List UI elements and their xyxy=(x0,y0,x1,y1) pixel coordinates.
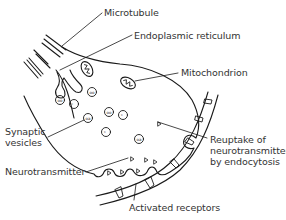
svg-text:oo: oo xyxy=(58,98,63,103)
label-microtubule: Microtubule xyxy=(104,7,159,18)
svg-text:oo: oo xyxy=(107,110,112,115)
svg-text:ᵇ: ᵇ xyxy=(104,130,106,135)
label-endoplasmic-reticulum: Endoplasmic reticulum xyxy=(134,30,240,41)
svg-text:ᵇ: ᵇ xyxy=(121,113,123,118)
svg-text:ᵒ: ᵒ xyxy=(72,102,74,107)
svg-text:oa: oa xyxy=(137,137,142,142)
leader-activated-receptors xyxy=(134,184,136,200)
mitochondrion-2 xyxy=(119,75,138,92)
label-neurotransmitter: Neurotransmitter xyxy=(5,166,85,177)
synapse-diagram: oo ᵒ oo oa oo ᵇ ᵇ oa xyxy=(0,0,286,220)
microtubules xyxy=(24,35,66,78)
leader-microtubule xyxy=(62,13,102,46)
svg-text:oo: oo xyxy=(90,90,95,95)
svg-text:oa: oa xyxy=(86,116,91,121)
leader-endoplasmic-reticulum xyxy=(60,35,132,70)
label-activated-receptors: Activated receptors xyxy=(129,202,220,213)
leader-reuptake xyxy=(158,122,207,138)
leader-synaptic-vesicles xyxy=(48,120,84,137)
label-mitochondrion: Mitochondrion xyxy=(181,67,248,78)
leader-neurotransmitter xyxy=(86,158,128,172)
mitochondrion-1 xyxy=(79,60,96,79)
label-synaptic-vesicles: Synaptic vesicles xyxy=(5,126,45,148)
label-reuptake: Reuptake of neurotransmitter by endocyto… xyxy=(210,134,286,167)
